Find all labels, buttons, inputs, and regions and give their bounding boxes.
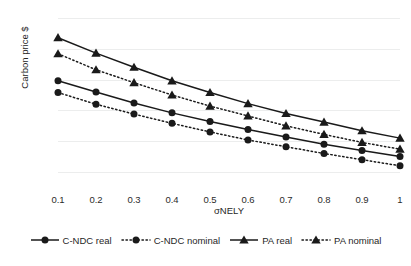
legend-item-c-ndc-nominal[interactable]: C-NDC nominal (121, 234, 221, 246)
chart-figure: Carbon price $ σNELY 5.04.54.03.53.02.5 … (0, 0, 411, 266)
gridline (58, 172, 400, 173)
x-axis-tick-label: 0.8 (309, 194, 339, 205)
x-axis-tick-label: 0.9 (347, 194, 377, 205)
circle-solid-icon (30, 234, 60, 246)
legend-item-pa-real[interactable]: PA real (229, 234, 292, 246)
y-axis-title: Carbon price $ (19, 3, 30, 113)
series-lines (58, 18, 400, 172)
x-axis-tick-label: 0.1 (43, 194, 73, 205)
triangle-dotted-icon (301, 234, 331, 246)
legend-label: C-NDC nominal (154, 235, 221, 246)
circle-dotted-icon (121, 234, 151, 246)
chart-legend: C-NDC realC-NDC nominalPA realPA nominal (0, 234, 411, 246)
series-c-ndc-nominal (55, 89, 404, 169)
legend-item-pa-nominal[interactable]: PA nominal (301, 234, 381, 246)
series-c-ndc-real (55, 77, 404, 160)
x-axis-tick-label: 0.6 (233, 194, 263, 205)
x-axis-tick-label: 1 (385, 194, 411, 205)
triangle-solid-icon (229, 234, 259, 246)
x-axis-tick-label: 0.2 (81, 194, 111, 205)
x-axis-tick-label: 0.4 (157, 194, 187, 205)
legend-label: PA nominal (334, 235, 381, 246)
series-pa-nominal (53, 49, 404, 153)
x-axis-tick-label: 0.5 (195, 194, 225, 205)
legend-label: C-NDC real (63, 235, 112, 246)
plot-area: 5.04.54.03.53.02.5 0.10.20.30.40.50.60.7… (58, 18, 400, 172)
x-axis-title: σNELY (58, 205, 400, 216)
x-axis-tick-label: 0.3 (119, 194, 149, 205)
legend-item-c-ndc-real[interactable]: C-NDC real (30, 234, 112, 246)
legend-label: PA real (262, 235, 292, 246)
x-axis-tick-label: 0.7 (271, 194, 301, 205)
